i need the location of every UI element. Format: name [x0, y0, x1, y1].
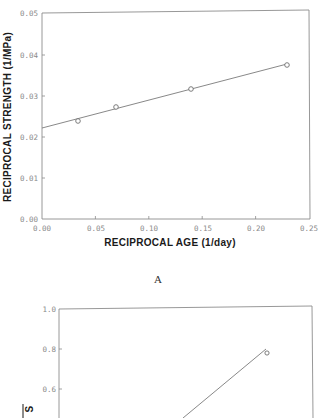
panel-a-caption: A	[154, 273, 162, 285]
chart-a-point	[285, 63, 290, 68]
chart-a-point	[76, 119, 81, 124]
chart-b-y-axis-title: S	[24, 405, 35, 412]
chart-a-y-axis-title: RECIPROCAL STRENGTH (1/MPa)	[2, 32, 13, 202]
chart-a-x-tick-2: 0.10	[140, 224, 159, 233]
chart-b-y-tick-2: 0.6	[42, 385, 56, 394]
chart-a-y-tick-5: 0.05	[20, 9, 38, 18]
chart-b-fit-line	[183, 349, 266, 418]
chart-b-y-tick-1: 0.8	[42, 345, 56, 354]
chart-a-point	[114, 105, 119, 110]
chart-a-y-tick-4: 0.04	[20, 51, 39, 60]
chart-a-x-tick-4: 0.20	[247, 224, 266, 233]
chart-a-x-tick-1: 0.05	[87, 224, 105, 233]
chart-a-y-tick-3: 0.03	[20, 92, 38, 101]
chart-a: 0.00 0.01 0.02 0.03 0.04 0.05 0.00 0.05 …	[2, 9, 318, 248]
figure: 0.00 0.01 0.02 0.03 0.04 0.05 0.00 0.05 …	[0, 0, 319, 418]
chart-a-y-tick-1: 0.01	[20, 174, 38, 183]
chart-a-x-tick-3: 0.15	[194, 224, 212, 233]
chart-a-y-tick-2: 0.02	[20, 133, 38, 142]
chart-a-y-tick-0: 0.00	[20, 215, 39, 224]
chart-b-y-tick-0: 1.0	[42, 305, 56, 314]
chart-a-x-axis-title: RECIPROCAL AGE (1/day)	[104, 237, 236, 248]
chart-b: 1.0 0.8 0.6 S	[23, 305, 313, 418]
chart-a-frame	[42, 10, 310, 219]
chart-b-point	[265, 351, 269, 355]
chart-a-x-tick-5: 0.25	[300, 224, 318, 233]
chart-b-frame	[59, 306, 313, 418]
chart-a-point	[189, 87, 194, 92]
chart-a-x-tick-0: 0.00	[33, 224, 52, 233]
